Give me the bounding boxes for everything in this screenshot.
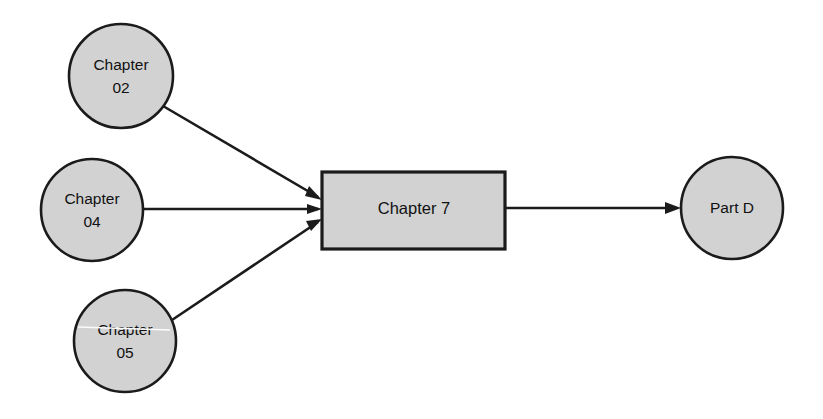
arrowhead-icon [665,202,681,214]
edge-line [172,222,318,320]
node-label-line1: Part D [710,199,754,216]
arrowhead-icon [305,186,322,200]
node-chapter-7[interactable]: Chapter 7 [322,172,505,249]
arrowhead-icon [307,204,322,214]
node-label-line1: Chapter 7 [378,199,450,217]
node-shape-circle [41,159,143,261]
node-shape-circle [69,24,173,128]
edge-chapter-04-to-chapter-7[interactable] [143,204,322,214]
edge-chapter-7-to-part-d[interactable] [505,202,681,214]
node-label-line1: Chapter [93,56,148,73]
diagram-svg: Chapter 02 Chapter 04 Chapter 05 Chapter [0,0,823,419]
node-label-line2: 05 [116,344,133,361]
node-chapter-05[interactable]: Chapter 05 [74,290,176,392]
edge-chapter-02-to-chapter-7[interactable] [163,106,322,200]
edge-chapter-05-to-chapter-7[interactable] [172,219,322,320]
edge-line [163,106,318,197]
node-chapter-02[interactable]: Chapter 02 [69,24,173,128]
node-label-line2: 04 [83,213,101,230]
node-label-line1: Chapter [64,190,119,207]
diagram-canvas: Chapter 02 Chapter 04 Chapter 05 Chapter [0,0,823,419]
node-chapter-04[interactable]: Chapter 04 [41,159,143,261]
node-part-d[interactable]: Part D [681,157,783,259]
node-shape-circle [74,290,176,392]
node-label-line2: 02 [112,79,129,96]
